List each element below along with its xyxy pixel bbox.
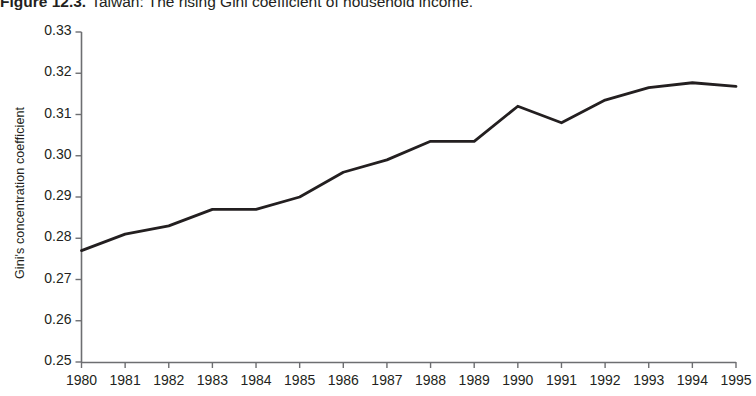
x-tick-label: 1993 xyxy=(627,372,671,388)
x-tick-label: 1989 xyxy=(452,372,496,388)
x-tick-label: 1982 xyxy=(147,372,191,388)
y-tick-label: 0.30 xyxy=(20,146,72,162)
y-tick-label: 0.27 xyxy=(20,270,72,286)
y-tick-label: 0.29 xyxy=(20,187,72,203)
y-tick-label: 0.28 xyxy=(20,228,72,244)
y-tick-label: 0.26 xyxy=(20,311,72,327)
x-tick-label: 1995 xyxy=(714,372,756,388)
y-tick-label: 0.31 xyxy=(20,105,72,121)
y-axis-ticks xyxy=(76,32,82,362)
x-tick-label: 1992 xyxy=(583,372,627,388)
x-tick-label: 1991 xyxy=(539,372,583,388)
x-tick-label: 1981 xyxy=(103,372,147,388)
y-tick-label: 0.25 xyxy=(20,352,72,368)
x-tick-label: 1986 xyxy=(321,372,365,388)
y-tick-label: 0.32 xyxy=(20,63,72,79)
x-tick-label: 1988 xyxy=(409,372,453,388)
y-tick-label: 0.33 xyxy=(20,22,72,38)
x-tick-label: 1985 xyxy=(278,372,322,388)
x-tick-label: 1990 xyxy=(496,372,540,388)
x-tick-label: 1987 xyxy=(365,372,409,388)
data-series-line xyxy=(82,83,737,251)
x-tick-label: 1994 xyxy=(670,372,714,388)
x-tick-label: 1980 xyxy=(60,372,104,388)
x-tick-label: 1983 xyxy=(190,372,234,388)
x-tick-label: 1984 xyxy=(234,372,278,388)
